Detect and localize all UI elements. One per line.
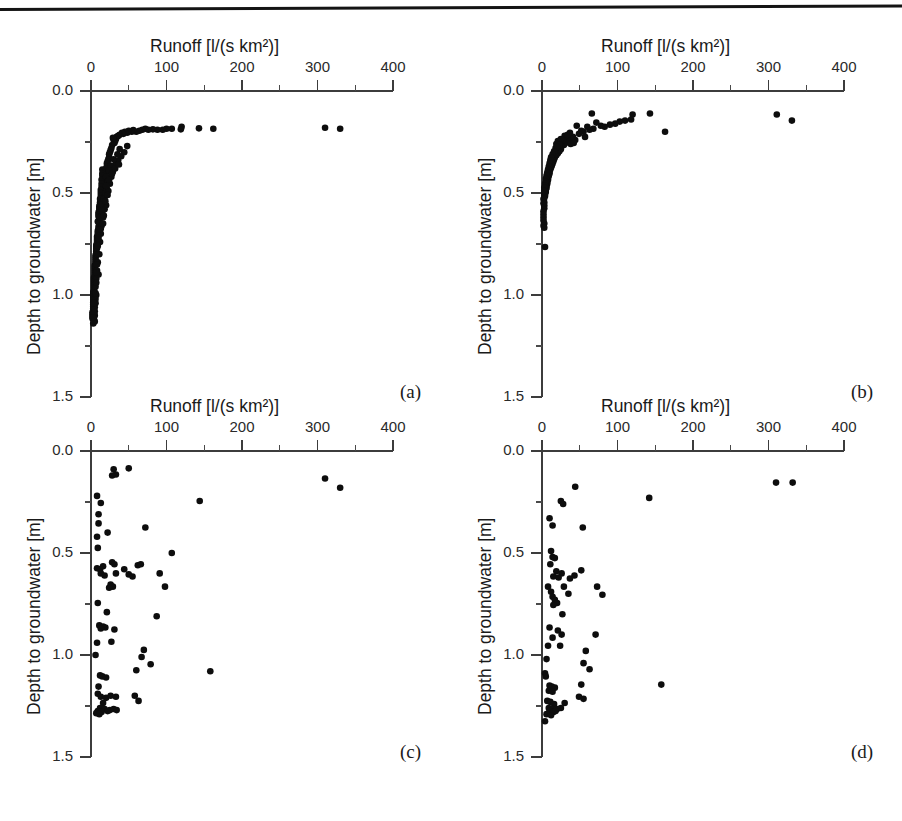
data-point	[599, 592, 606, 599]
data-point	[561, 583, 568, 590]
x-tick-label-b-3: 300	[739, 58, 799, 75]
data-point	[98, 570, 105, 577]
data-point	[109, 472, 116, 479]
data-point	[542, 673, 549, 680]
data-point	[564, 132, 571, 139]
data-point	[774, 111, 781, 118]
data-point	[101, 212, 108, 219]
data-point	[550, 602, 557, 609]
data-point	[94, 251, 101, 258]
data-point	[542, 718, 549, 725]
data-point	[104, 192, 111, 199]
data-point	[103, 183, 110, 190]
y-tick-label-c-0: 0.0	[15, 441, 73, 458]
data-point	[104, 609, 111, 616]
y-tick-label-d-0: 0.0	[466, 441, 524, 458]
data-point	[579, 524, 586, 531]
x-tick-label-d-0: 0	[512, 418, 572, 435]
data-point	[542, 244, 549, 251]
data-point	[557, 643, 564, 650]
data-point	[582, 648, 589, 655]
data-point	[162, 583, 169, 590]
data-point	[129, 573, 136, 580]
data-point	[95, 600, 102, 607]
data-point	[92, 652, 99, 659]
x-tick-label-b-0: 0	[512, 58, 572, 75]
data-point	[104, 708, 111, 715]
x-tick-label-a-4: 400	[363, 58, 423, 75]
y-tick-label-d-3: 1.5	[466, 747, 524, 764]
x-tick-label-b-2: 200	[663, 58, 723, 75]
data-point	[95, 520, 102, 527]
data-point	[138, 654, 145, 661]
data-point	[662, 129, 669, 136]
figure-root: Runoff [l/(s km²)]Depth to groundwater […	[0, 0, 902, 821]
data-point	[547, 561, 554, 568]
data-point	[110, 135, 117, 142]
y-tick-label-b-2: 1.0	[466, 285, 524, 302]
data-point	[565, 591, 572, 598]
y-tick-label-c-2: 1.0	[15, 645, 73, 662]
data-point	[178, 126, 185, 133]
data-point	[337, 484, 344, 491]
plot-panel-b: Runoff [l/(s km²)]Depth to groundwater […	[451, 0, 902, 411]
x-tick-label-a-0: 0	[61, 58, 121, 75]
data-point	[789, 117, 796, 124]
data-point	[570, 140, 577, 147]
data-point	[773, 479, 780, 486]
x-tick-label-b-4: 400	[814, 58, 874, 75]
data-point	[96, 711, 103, 718]
data-point	[94, 261, 101, 268]
x-tick-label-b-1: 100	[588, 58, 648, 75]
data-point	[541, 188, 548, 195]
data-point	[153, 613, 160, 620]
data-point	[207, 668, 214, 675]
data-point	[94, 639, 101, 646]
x-tick-label-c-1: 100	[137, 418, 197, 435]
data-point	[559, 611, 566, 618]
data-point	[113, 570, 120, 577]
data-point	[546, 624, 553, 631]
x-tick-label-c-4: 400	[363, 418, 423, 435]
data-point	[147, 661, 154, 668]
data-point	[95, 511, 102, 518]
data-point	[540, 200, 547, 207]
data-point	[578, 567, 585, 574]
data-point	[125, 465, 132, 472]
data-point	[196, 498, 203, 505]
data-point	[98, 625, 105, 632]
data-point	[121, 566, 128, 573]
data-point	[576, 131, 583, 138]
panel-label-c: (c)	[400, 741, 421, 763]
x-tick-label-a-3: 300	[288, 58, 348, 75]
data-point	[94, 493, 101, 500]
data-point	[141, 647, 148, 654]
data-point	[628, 116, 635, 123]
data-point	[567, 575, 574, 582]
data-point	[110, 156, 117, 163]
y-tick-label-d-1: 0.5	[466, 543, 524, 560]
data-point	[95, 683, 102, 690]
data-point	[578, 681, 585, 688]
x-tick-label-d-1: 100	[588, 418, 648, 435]
data-point	[111, 561, 118, 568]
data-point	[156, 570, 163, 577]
data-point	[92, 290, 99, 297]
y-tick-label-c-1: 0.5	[15, 543, 73, 560]
x-tick-label-a-2: 200	[212, 58, 272, 75]
data-point	[113, 694, 120, 701]
data-point	[93, 269, 100, 276]
data-point	[95, 235, 102, 242]
data-points-c	[92, 465, 343, 717]
data-point	[560, 501, 567, 508]
data-point	[108, 638, 115, 645]
data-point	[541, 224, 548, 231]
data-point	[133, 667, 140, 674]
data-point	[548, 548, 555, 555]
data-points-d	[542, 479, 796, 724]
data-point	[196, 125, 203, 132]
data-point	[106, 176, 113, 183]
plot-panel-a: Runoff [l/(s km²)]Depth to groundwater […	[0, 0, 451, 411]
data-point	[96, 226, 103, 233]
axes-c	[80, 440, 393, 757]
